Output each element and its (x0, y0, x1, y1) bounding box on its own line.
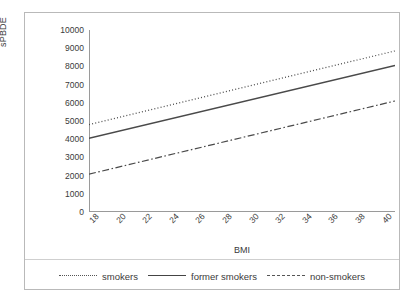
y-axis-tick-label: 10000 (38, 26, 84, 34)
x-axis-tick-label: 20 (114, 211, 128, 225)
plot-svg (89, 30, 395, 212)
x-axis-tick-label: 24 (167, 211, 181, 225)
series-line-smokers (89, 51, 395, 125)
series-lines (89, 51, 395, 174)
legend-item-non-smokers: non-smokers (267, 271, 365, 282)
legend-label: non-smokers (310, 271, 365, 282)
y-axis-tick-label: 2000 (38, 172, 84, 180)
y-axis-tick-label: 9000 (38, 44, 84, 52)
x-axis-tick-label: 30 (247, 211, 261, 225)
y-axis-tick-label: 8000 (38, 62, 84, 70)
chart-legend: smokers former smokers non-smokers (25, 266, 399, 286)
x-axis-tick-label: 28 (220, 211, 234, 225)
y-axis-tick-label: 3000 (38, 153, 84, 161)
series-line-non-smokers (89, 101, 395, 174)
axis-lines (89, 30, 395, 212)
y-axis-tick-label: 6000 (38, 99, 84, 107)
plot-area (89, 30, 395, 212)
legend-item-former-smokers: former smokers (148, 271, 257, 282)
y-axis-tick-label: 1000 (38, 190, 84, 198)
y-axis-tick-label: 5000 (38, 117, 84, 125)
y-axis-tick-labels: 0100020003000400050006000700080009000100… (36, 12, 84, 232)
series-line-former-smokers (89, 65, 395, 138)
x-axis-tick-label: 36 (326, 211, 340, 225)
dotted-line-icon (59, 275, 97, 277)
y-axis-tick-label: 4000 (38, 135, 84, 143)
y-axis-tick-label: 7000 (38, 81, 84, 89)
x-axis-tick-label: 40 (380, 211, 394, 225)
solid-line-icon (148, 275, 186, 277)
legend-label: former smokers (191, 271, 257, 282)
x-axis-title: BMI (89, 245, 395, 255)
chart-figure: sPBDE 0100020003000400050006000700080009… (0, 0, 419, 302)
x-axis-tick-labels: 182022242628303234363840 (89, 214, 399, 248)
x-axis-tick-label: 32 (273, 211, 287, 225)
y-axis-title: sPBDE (0, 0, 8, 92)
legend-item-smokers: smokers (59, 271, 138, 282)
x-axis-tick-label: 22 (140, 211, 154, 225)
x-axis-tick-label: 26 (193, 211, 207, 225)
x-axis-tick-label: 38 (353, 211, 367, 225)
x-axis-tick-label: 18 (87, 211, 101, 225)
dash-dot-line-icon (267, 275, 305, 277)
x-axis-tick-label: 34 (300, 211, 314, 225)
legend-separator (25, 259, 399, 260)
legend-label: smokers (102, 271, 138, 282)
y-axis-tick-label: 0 (38, 208, 84, 216)
